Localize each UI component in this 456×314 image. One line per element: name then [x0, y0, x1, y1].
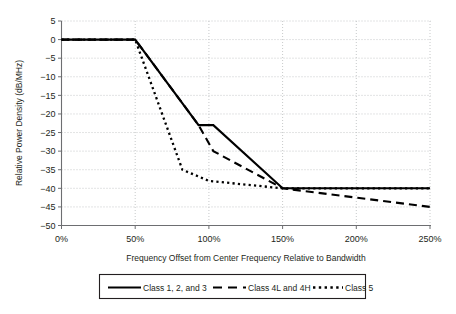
x-tick-label-2: 100% — [197, 234, 220, 244]
y-tick-label-8: −35 — [40, 165, 55, 175]
y-tick-label-4: −15 — [40, 91, 55, 101]
y-tick-label-0: 5 — [50, 16, 55, 26]
spectral-mask-chart: 50−5−10−15−20−25−30−35−40−45−50 0%50%100… — [0, 0, 456, 314]
x-tick-label-4: 200% — [345, 234, 368, 244]
chart-figure: 50−5−10−15−20−25−30−35−40−45−50 0%50%100… — [0, 0, 456, 314]
y-tick-label-11: −50 — [40, 221, 55, 231]
y-tick-label-5: −20 — [40, 109, 55, 119]
x-tick-label-0: 0% — [55, 234, 68, 244]
legend-label-2: Class 5 — [345, 283, 374, 293]
x-tick-label-5: 250% — [418, 234, 441, 244]
y-tick-label-9: −40 — [40, 184, 55, 194]
x-tick-label-1: 50% — [126, 234, 144, 244]
chart-background — [0, 0, 456, 314]
x-axis-title: Frequency Offset from Center Frequency R… — [126, 253, 366, 263]
y-tick-label-2: −5 — [45, 53, 55, 63]
legend-label-1: Class 4L and 4H — [248, 283, 311, 293]
legend-label-0: Class 1, 2, and 3 — [143, 283, 207, 293]
y-axis-title: Relative Power Density (dB/MHz) — [14, 60, 24, 186]
y-tick-label-3: −10 — [40, 72, 55, 82]
y-tick-label-6: −25 — [40, 128, 55, 138]
y-tick-label-10: −45 — [40, 202, 55, 212]
x-tick-label-3: 150% — [271, 234, 294, 244]
y-tick-label-7: −30 — [40, 146, 55, 156]
y-tick-label-1: 0 — [50, 35, 55, 45]
